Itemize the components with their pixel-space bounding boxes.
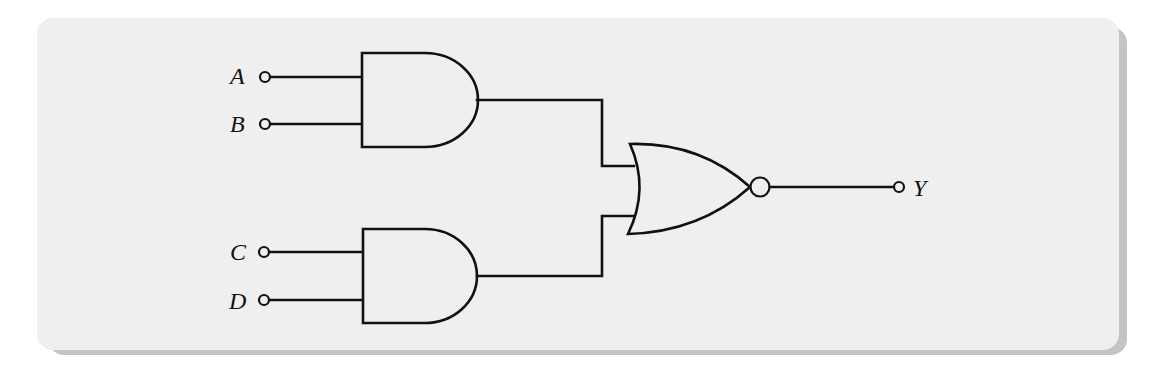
- input-terminal-b: [260, 119, 270, 129]
- wire-and2-to-nor: [477, 216, 634, 276]
- input-terminal-c: [259, 247, 269, 257]
- and-gate-2: [363, 229, 477, 323]
- input-label-a: A: [228, 63, 245, 89]
- wire-and1-to-nor: [477, 100, 634, 166]
- and-gate-1: [362, 53, 478, 147]
- input-label-b: B: [230, 111, 245, 137]
- logic-circuit-diagram: A B C D Y: [0, 0, 1158, 377]
- input-terminal-d: [259, 295, 269, 305]
- input-label-c: C: [230, 239, 247, 265]
- input-label-d: D: [228, 288, 246, 314]
- output-label-y: Y: [913, 175, 929, 201]
- input-terminal-a: [260, 72, 270, 82]
- nor-inversion-bubble: [751, 178, 770, 197]
- nor-gate: [628, 144, 750, 234]
- output-terminal-y: [894, 182, 904, 192]
